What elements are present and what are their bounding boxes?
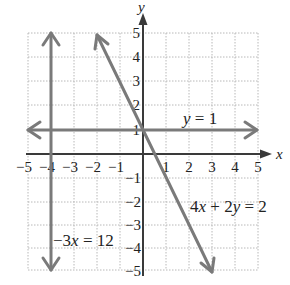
svg-text:−5: −5 [16, 159, 32, 175]
label-4x-plus-2y-equals-2: 4x + 2y = 2 [190, 197, 267, 216]
svg-text:−3: −3 [62, 159, 78, 175]
svg-text:−1: −1 [125, 170, 141, 186]
svg-text:4: 4 [133, 49, 141, 65]
svg-text:−4: −4 [39, 159, 55, 175]
svg-text:2: 2 [185, 159, 193, 175]
coordinate-graph: x y −5 −4 −3 −2 −1 1 2 3 4 5 5 4 3 2 1 −… [0, 0, 290, 285]
svg-text:−2: −2 [85, 159, 101, 175]
svg-text:5: 5 [133, 25, 141, 41]
svg-text:−4: −4 [125, 240, 141, 256]
x-axis-label: x [275, 146, 283, 162]
svg-text:4: 4 [231, 159, 239, 175]
y-axis-label: y [136, 0, 145, 15]
svg-text:−5: −5 [125, 263, 141, 279]
y-tick-labels: 5 4 3 2 1 −1 −2 −3 −4 −5 [125, 25, 141, 279]
svg-text:3: 3 [133, 73, 141, 89]
x-axis-arrow-icon [260, 150, 272, 159]
label-y-equals-1: y = 1 [181, 109, 217, 128]
svg-text:−2: −2 [125, 194, 141, 210]
svg-text:−1: −1 [108, 159, 124, 175]
svg-text:5: 5 [254, 159, 262, 175]
svg-text:−3: −3 [125, 217, 141, 233]
label-neg3x-equals-12: −3x = 12 [53, 231, 114, 250]
svg-text:3: 3 [208, 159, 216, 175]
